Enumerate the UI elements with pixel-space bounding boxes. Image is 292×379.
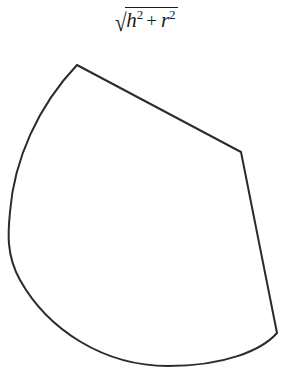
slant-height-label: √h2+r2 [0, 8, 292, 35]
radicand-group: h2+r2 [125, 7, 177, 33]
radical-expression: √h2+r2 [114, 8, 177, 35]
cone-sector-figure [0, 0, 292, 379]
exponent-r-squared: 2 [169, 7, 176, 22]
variable-r: r [161, 8, 169, 32]
diagram-canvas: √h2+r2 [0, 0, 292, 379]
plus-operator: + [143, 10, 161, 31]
variable-h: h [126, 8, 137, 32]
cone-lateral-surface-outline [9, 65, 277, 366]
